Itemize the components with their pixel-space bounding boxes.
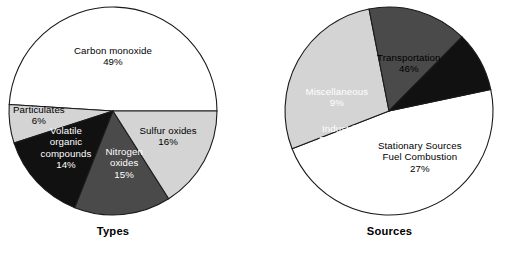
caption-types: Types [0,225,226,237]
pie-chart-figure: Carbon monoxide49%Particulates6%Volatile… [0,0,505,258]
pie-slice[interactable] [9,7,217,111]
chart-panel-sources: Transportation46%Stationary SourcesFuel … [252,0,505,258]
chart-panel-types: Carbon monoxide49%Particulates6%Volatile… [0,0,252,258]
pie-sources [252,0,505,226]
pie-types [0,0,252,226]
caption-sources: Sources [252,225,505,237]
